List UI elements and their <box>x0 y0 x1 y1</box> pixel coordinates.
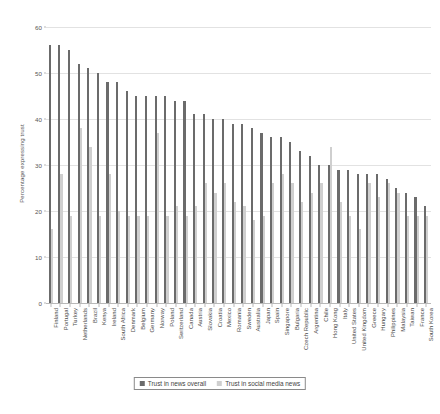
x-tick-mark <box>349 304 350 307</box>
x-tick-mark <box>329 304 330 307</box>
x-tick-mark <box>397 304 398 307</box>
bar-social <box>320 183 322 303</box>
bar-group <box>287 27 297 303</box>
x-tick-mark <box>89 304 90 307</box>
bar-group <box>75 27 85 303</box>
x-label-cell: Japan <box>258 304 268 374</box>
x-tick-mark <box>204 304 205 307</box>
bar-social <box>89 147 91 303</box>
legend-swatch-icon-overall <box>140 381 145 386</box>
x-tick-mark <box>252 304 253 307</box>
bar-social <box>378 197 380 303</box>
x-label-cell: Turkey <box>65 304 75 374</box>
bar-group <box>402 27 412 303</box>
x-tick-mark <box>70 304 71 307</box>
bar-social <box>234 202 236 303</box>
x-label-cell: Sweden <box>239 304 249 374</box>
bar-group <box>56 27 66 303</box>
bar-social <box>282 174 284 303</box>
x-label-cell: United Kingdom <box>354 304 364 374</box>
legend-label-social: Trust in social media news <box>225 380 300 387</box>
x-label-cell: Austria <box>190 304 200 374</box>
x-label-cell: Germany <box>142 304 152 374</box>
bar-social <box>417 216 419 303</box>
bar-group <box>190 27 200 303</box>
y-tick-label-60: 60 <box>35 24 42 31</box>
legend-item-social: Trust in social media news <box>217 380 300 387</box>
x-label-cell: Philippines <box>383 304 393 374</box>
bar-social <box>166 216 168 303</box>
bar-group <box>210 27 220 303</box>
x-tick-mark <box>195 304 196 307</box>
bar-group <box>306 27 316 303</box>
x-label-cell: France <box>412 304 422 374</box>
bar-group <box>277 27 287 303</box>
x-label-cell: Poland <box>162 304 172 374</box>
bar-social <box>157 133 159 303</box>
x-tick-mark <box>79 304 80 307</box>
x-tick-mark <box>272 304 273 307</box>
x-tick-mark <box>233 304 234 307</box>
x-tick-mark <box>156 304 157 307</box>
x-tick-mark <box>291 304 292 307</box>
bar-group <box>412 27 422 303</box>
x-tick-mark <box>416 304 417 307</box>
x-label-cell: United States <box>344 304 354 374</box>
bar-social <box>51 229 53 303</box>
bar-group <box>94 27 104 303</box>
bar-group <box>258 27 268 303</box>
bar-social <box>263 216 265 303</box>
bar-group <box>421 27 431 303</box>
x-label-cell: Chile <box>316 304 326 374</box>
bar-group <box>152 27 162 303</box>
x-tick-mark <box>310 304 311 307</box>
x-tick-mark <box>358 304 359 307</box>
x-label-cell: Hong Kong <box>325 304 335 374</box>
bar-group <box>325 27 335 303</box>
bar-social <box>340 202 342 303</box>
x-tick-label: South Korea <box>428 308 434 341</box>
x-tick-mark <box>320 304 321 307</box>
bar-group <box>354 27 364 303</box>
y-axis-title: Percentage expressing trust <box>18 84 25 244</box>
y-tick-label-0: 0 <box>39 300 42 307</box>
x-tick-mark <box>50 304 51 307</box>
x-tick-mark <box>243 304 244 307</box>
x-label-cell: Italy <box>335 304 345 374</box>
bar-group <box>113 27 123 303</box>
x-label-cell: South Korea <box>421 304 431 374</box>
bar-group <box>123 27 133 303</box>
bar-chart: Percentage expressing trust 010203040506… <box>0 0 440 414</box>
x-label-cell: Switzerland <box>171 304 181 374</box>
bar-group <box>85 27 95 303</box>
bar-social <box>243 206 245 303</box>
bar-social <box>291 183 293 303</box>
bar-group <box>239 27 249 303</box>
x-label-cell: Australia <box>248 304 258 374</box>
x-label-cell: Bulgaria <box>287 304 297 374</box>
x-label-cell: Canada <box>181 304 191 374</box>
x-tick-mark <box>262 304 263 307</box>
bar-group <box>267 27 277 303</box>
bar-social <box>195 206 197 303</box>
bar-group <box>46 27 56 303</box>
bar-social <box>368 183 370 303</box>
bar-social <box>330 147 332 303</box>
bar-group <box>181 27 191 303</box>
bar-social <box>186 216 188 303</box>
x-label-cell: Kenya <box>94 304 104 374</box>
x-label-cell: Singapore <box>277 304 287 374</box>
bar-social <box>60 174 62 303</box>
x-label-cell: Hungary <box>373 304 383 374</box>
y-tick-label-50: 50 <box>35 70 42 77</box>
bar-social <box>137 216 139 303</box>
x-tick-mark <box>368 304 369 307</box>
bar-social <box>349 216 351 303</box>
x-tick-mark <box>127 304 128 307</box>
x-tick-mark <box>281 304 282 307</box>
x-label-cell: Belgium <box>133 304 143 374</box>
bar-group <box>383 27 393 303</box>
bar-group <box>229 27 239 303</box>
y-tick-label-30: 30 <box>35 162 42 169</box>
bar-group <box>316 27 326 303</box>
